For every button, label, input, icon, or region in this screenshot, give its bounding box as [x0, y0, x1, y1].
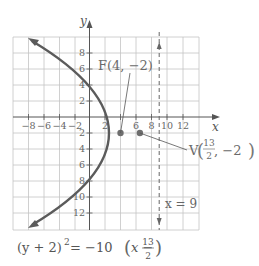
svg-text:= −10: = −10	[70, 240, 112, 255]
svg-text:−6: −6	[37, 120, 51, 131]
svg-text:(: (	[124, 237, 131, 258]
svg-text:6: 6	[133, 120, 139, 131]
svg-text:12: 12	[177, 120, 189, 131]
svg-text:8: 8	[79, 47, 85, 58]
svg-text:10: 10	[73, 191, 85, 202]
focus-leader-line	[121, 73, 131, 133]
x-axis-label: x	[212, 120, 219, 134]
y-axis-label: y	[79, 14, 87, 28]
svg-text:6: 6	[79, 63, 85, 74]
parabola-equation: (y + 2) 2 = −10 ( x − 13 2 )	[17, 237, 162, 261]
svg-text:2: 2	[145, 251, 151, 261]
svg-text:2: 2	[206, 151, 212, 161]
svg-text:2: 2	[79, 127, 85, 138]
svg-text:6: 6	[79, 159, 85, 170]
directrix-label: x = 9	[165, 197, 197, 211]
parabola-graph: −8 −6 −4 −2 2 6 8 10 12 8 6 4 2 2 4 6 8 …	[0, 0, 259, 266]
svg-text:(y + 2): (y + 2)	[17, 240, 62, 255]
svg-text:−4: −4	[52, 120, 66, 131]
svg-text:2: 2	[79, 95, 85, 106]
svg-text:12: 12	[73, 207, 85, 218]
svg-text:−8: −8	[21, 120, 35, 131]
y-axis-arrow-icon	[87, 20, 93, 28]
vertex-leader-line	[140, 133, 187, 150]
svg-text:, −2: , −2	[214, 143, 241, 158]
svg-text:2: 2	[64, 237, 70, 247]
svg-text:10: 10	[161, 120, 173, 131]
focus-label: F(4, −2)	[98, 58, 153, 73]
directrix-arrow-down-icon	[157, 218, 162, 225]
svg-text:): )	[248, 140, 255, 161]
svg-text:13: 13	[142, 237, 154, 247]
vertex-label: V ( 13 2 , −2 )	[188, 138, 255, 161]
svg-text:): )	[155, 237, 162, 258]
svg-text:8: 8	[148, 120, 154, 131]
svg-text:4: 4	[79, 143, 85, 154]
directrix-arrow-up-icon	[157, 42, 162, 49]
